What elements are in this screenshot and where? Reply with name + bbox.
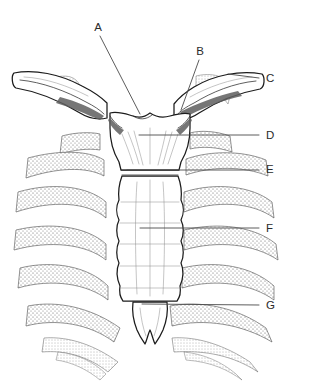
sternum-diagram: A B C D E F G xyxy=(0,0,320,383)
label-c: C xyxy=(266,72,274,84)
label-b: B xyxy=(196,45,204,57)
label-e: E xyxy=(266,163,274,175)
label-f: F xyxy=(266,222,273,234)
label-d: D xyxy=(266,129,274,141)
anatomy-figure: A B C D E F G xyxy=(0,0,320,383)
body-of-sternum xyxy=(117,176,184,301)
label-g: G xyxy=(266,299,275,311)
manubrium xyxy=(108,112,192,170)
label-a: A xyxy=(94,21,102,33)
